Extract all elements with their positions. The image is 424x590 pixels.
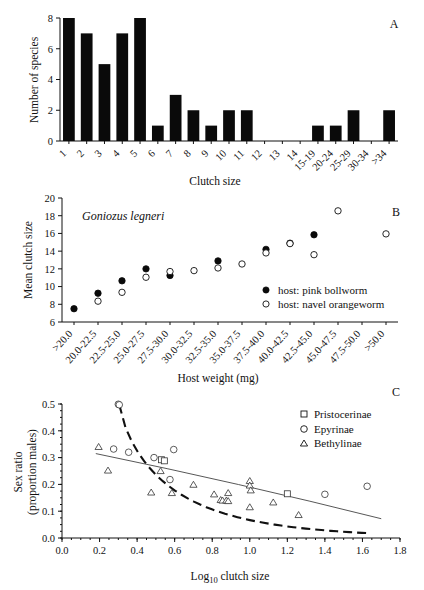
panel-c-x-axis-title: Log10 clutch size bbox=[191, 570, 270, 585]
y-tick-label-c: 0.5 bbox=[42, 399, 55, 410]
bar bbox=[134, 18, 146, 141]
data-point-epyrinae bbox=[364, 483, 371, 490]
legend-label-navel-orangeworm: host: navel orangeworm bbox=[278, 298, 385, 310]
data-point-bethylinae bbox=[157, 468, 164, 474]
x-tick-label-a: >34 bbox=[369, 147, 389, 167]
x-tick-label-a: 4 bbox=[110, 147, 122, 159]
x-tick-label-a: 11 bbox=[231, 148, 246, 163]
x-tick-label-c: 0.0 bbox=[55, 545, 68, 556]
y-tick-label-a: 0 bbox=[48, 136, 53, 147]
panel-a: 02468 123456789101112131415-1920-2425-29… bbox=[0, 0, 424, 190]
x-tick-label-a: 8 bbox=[181, 148, 192, 159]
data-point-navel-orangeworm bbox=[311, 251, 317, 257]
y-tick-label-a: 2 bbox=[48, 105, 53, 116]
x-tick-label-c: 0.4 bbox=[131, 545, 145, 556]
y-tick-label-b: 12 bbox=[45, 264, 56, 275]
y-tick-label-a: 4 bbox=[48, 74, 54, 85]
data-point-navel-orangeworm bbox=[287, 240, 293, 246]
bar bbox=[188, 110, 200, 141]
panel-a-bars bbox=[63, 18, 395, 141]
panel-b-y-axis-title: Mean clutch size bbox=[22, 221, 34, 299]
data-point-navel-orangeworm bbox=[191, 267, 197, 273]
panel-c-legend: Pristocerinae Epyrinae Bethylinae bbox=[300, 408, 371, 449]
data-point-bethylinae bbox=[190, 481, 197, 487]
y-tick-label-b: 20 bbox=[45, 193, 56, 204]
data-point-epyrinae bbox=[322, 491, 329, 498]
y-tick-label-b: 18 bbox=[45, 211, 56, 222]
panel-c: 0.00.10.20.30.40.5 0.00.20.40.60.81.01.2… bbox=[0, 382, 424, 590]
y-tick-label-a: 6 bbox=[48, 44, 53, 55]
data-point-navel-orangeworm bbox=[143, 274, 149, 280]
panel-b-species-annotation: Goniozus legneri bbox=[82, 209, 164, 223]
panel-b-x-ticks: >20.020.0-22.522.5-25.025.0-27.527.5-30.… bbox=[50, 322, 386, 365]
data-point-navel-orangeworm bbox=[119, 289, 125, 295]
x-tick-label-a: 3 bbox=[92, 148, 103, 159]
bar bbox=[383, 110, 395, 141]
data-point-bethylinae bbox=[95, 443, 102, 449]
data-point-epyrinae bbox=[151, 454, 158, 461]
data-point-navel-orangeworm bbox=[215, 265, 221, 271]
legend-label-pink-bollworm: host: pink bollworm bbox=[278, 284, 368, 296]
legend-label-bethylinae: Bethylinae bbox=[314, 437, 362, 449]
data-point-bethylinae bbox=[148, 489, 155, 495]
bar bbox=[205, 126, 217, 141]
data-point-bethylinae bbox=[104, 467, 111, 473]
panel-b-label: B bbox=[392, 205, 400, 219]
x-tick-label-a: 7 bbox=[164, 148, 175, 159]
fit-line-solid bbox=[96, 454, 381, 519]
x-tick-label-c: 1.2 bbox=[281, 545, 294, 556]
data-point-navel-orangeworm bbox=[239, 261, 245, 267]
x-tick-label-c: 0.8 bbox=[206, 545, 219, 556]
x-tick-label-a: 10 bbox=[213, 148, 228, 163]
y-tick-label-b: 16 bbox=[45, 228, 56, 239]
data-point-pristocerinae bbox=[161, 458, 167, 464]
y-tick-label-c: 0.0 bbox=[42, 533, 55, 544]
panel-b-legend: host: pink bollworm host: navel orangewo… bbox=[263, 284, 385, 310]
data-point-epyrinae bbox=[116, 402, 123, 409]
x-axis-title-base: Log bbox=[191, 570, 210, 583]
legend-marker-navel-orangeworm bbox=[263, 301, 269, 307]
data-point-pink-bollworm bbox=[95, 290, 101, 296]
panel-b-y-ticks: 68101214161820 bbox=[45, 193, 63, 328]
panel-c-y-axis-title-line2: (proportion males) bbox=[26, 429, 39, 515]
data-point-navel-orangeworm bbox=[263, 250, 269, 256]
data-point-pink-bollworm bbox=[119, 278, 125, 284]
x-tick-label-a: 6 bbox=[146, 148, 157, 159]
y-tick-label-a: 8 bbox=[48, 13, 53, 24]
x-tick-label-c: 0.6 bbox=[168, 545, 181, 556]
data-point-pink-bollworm bbox=[143, 266, 149, 272]
data-point-epyrinae bbox=[167, 476, 174, 483]
y-tick-label-b: 6 bbox=[50, 317, 55, 328]
data-point-navel-orangeworm bbox=[335, 208, 341, 214]
data-point-navel-orangeworm bbox=[383, 231, 389, 237]
x-tick-label-a: 30-34 bbox=[346, 147, 372, 173]
bar bbox=[170, 95, 182, 141]
data-point-bethylinae bbox=[225, 490, 232, 496]
bar bbox=[348, 110, 360, 141]
x-axis-title-rest: clutch size bbox=[218, 570, 270, 582]
panel-c-x-ticks: 0.00.20.40.60.81.01.21.41.61.8 bbox=[55, 538, 406, 556]
bar bbox=[330, 126, 342, 141]
x-tick-label-c: 1.0 bbox=[243, 545, 256, 556]
data-point-pink-bollworm bbox=[71, 306, 77, 312]
x-tick-label-a: 1 bbox=[57, 148, 68, 159]
bar bbox=[81, 33, 93, 141]
data-point-navel-orangeworm bbox=[167, 268, 173, 274]
y-tick-label-c: 0.4 bbox=[42, 426, 56, 437]
x-tick-label-b: >50.0 bbox=[362, 328, 386, 353]
legend-marker-bethylinae bbox=[300, 440, 307, 446]
data-point-navel-orangeworm bbox=[95, 298, 101, 304]
y-tick-label-b: 10 bbox=[45, 281, 56, 292]
x-tick-label-a: 13 bbox=[267, 148, 282, 163]
legend-marker-pink-bollworm bbox=[263, 287, 269, 293]
panel-c-y-ticks: 0.00.10.20.30.40.5 bbox=[42, 399, 62, 544]
y-tick-label-c: 0.3 bbox=[42, 452, 55, 463]
data-point-pink-bollworm bbox=[311, 232, 317, 238]
panel-a-y-axis-title: Number of species bbox=[28, 36, 41, 123]
x-tick-label-c: 1.6 bbox=[356, 545, 369, 556]
x-axis-title-subscript: 10 bbox=[209, 575, 218, 585]
x-tick-label-a: 12 bbox=[249, 148, 264, 163]
x-tick-label-c: 1.4 bbox=[318, 545, 332, 556]
panel-b-data-points bbox=[71, 208, 389, 312]
legend-marker-epyrinae bbox=[301, 426, 308, 433]
